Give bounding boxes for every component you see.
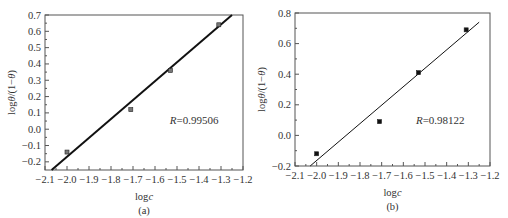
- y-tick-label: 0.5: [28, 42, 41, 53]
- x-tick-label: −1.3: [459, 170, 478, 181]
- x-tick-label: −1.8: [350, 170, 369, 181]
- fit-line: [52, 15, 232, 170]
- data-point: [464, 28, 468, 32]
- x-axis-title: logc: [135, 191, 153, 202]
- chart-a: −2.1−2.0−1.9−1.8−1.7−1.6−1.5−1.4−1.3−1.2…: [6, 10, 253, 218]
- y-tick-label: −0.1: [22, 140, 41, 151]
- data-point: [217, 23, 221, 27]
- y-tick-label: 0.8: [278, 8, 291, 19]
- y-tick-label: 0.6: [278, 38, 291, 49]
- figure-caption: (b): [386, 201, 399, 213]
- x-tick-label: −1.5: [415, 170, 434, 181]
- y-tick-label: −0.2: [22, 156, 41, 167]
- x-tick-label: −1.9: [329, 170, 348, 181]
- x-tick-label: −2.1: [285, 170, 304, 181]
- x-tick-label: −1.7: [123, 174, 142, 185]
- y-tick-label: 0.3: [28, 75, 41, 86]
- data-point: [315, 152, 319, 156]
- x-tick-label: −1.6: [394, 170, 413, 181]
- y-tick-label: 0.4: [278, 69, 292, 80]
- x-tick-label: −1.2: [480, 170, 499, 181]
- fit-line: [310, 22, 479, 166]
- data-point: [65, 150, 69, 154]
- x-tick-label: −1.7: [372, 170, 391, 181]
- figure-caption: (a): [138, 205, 150, 217]
- y-tick-label: −0.2: [272, 161, 291, 172]
- y-tick-label: 0.7: [28, 10, 41, 21]
- x-tick-label: −1.3: [211, 174, 230, 185]
- data-point: [378, 120, 382, 124]
- data-point: [168, 68, 172, 72]
- chart-b: −2.1−2.0−1.9−1.8−1.7−1.6−1.5−1.4−1.3−1.2…: [256, 8, 500, 214]
- x-tick-label: −1.6: [145, 174, 164, 185]
- x-tick-label: −1.4: [437, 170, 457, 181]
- y-axis-title: logθ/(1−θ): [256, 67, 268, 112]
- x-tick-label: −2.1: [35, 174, 54, 185]
- plot-frame: [295, 13, 490, 166]
- r-value-annotation: R=0.98122: [415, 114, 465, 126]
- figure-canvas: −2.1−2.0−1.9−1.8−1.7−1.6−1.5−1.4−1.3−1.2…: [0, 0, 508, 218]
- x-tick-label: −1.5: [167, 174, 186, 185]
- y-tick-label: 0.0: [278, 130, 291, 141]
- x-tick-label: −1.9: [79, 174, 98, 185]
- x-tick-label: −2.0: [57, 174, 76, 185]
- r-value-annotation: R=0.99506: [169, 114, 219, 126]
- data-point: [417, 71, 421, 75]
- plot-frame: [45, 15, 243, 170]
- x-tick-label: −1.2: [233, 174, 252, 185]
- y-axis-title: logθ/(1−θ): [6, 70, 18, 115]
- x-axis-title: logc: [383, 187, 401, 198]
- x-tick-label: −1.8: [101, 174, 120, 185]
- y-tick-label: 0.6: [28, 26, 41, 37]
- data-point: [129, 108, 133, 112]
- x-tick-label: −1.4: [189, 174, 209, 185]
- y-tick-label: 0.2: [278, 99, 291, 110]
- y-tick-label: 0.0: [28, 124, 41, 135]
- y-tick-label: 0.2: [28, 91, 41, 102]
- x-tick-label: −2.0: [307, 170, 326, 181]
- y-tick-label: 0.1: [28, 107, 41, 118]
- y-tick-label: 0.4: [28, 58, 42, 69]
